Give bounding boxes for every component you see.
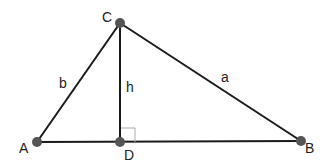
side-a-line (120, 23, 301, 141)
label-B: B (305, 140, 314, 156)
label-C: C (102, 9, 112, 25)
label-side-a: a (221, 69, 229, 85)
label-altitude-h: h (126, 79, 134, 95)
label-side-b: b (59, 75, 67, 91)
point-D (115, 137, 125, 147)
point-A (32, 137, 42, 147)
base-line (37, 141, 301, 142)
point-C (115, 18, 125, 28)
label-A: A (19, 140, 29, 156)
side-b-line (37, 23, 120, 142)
triangle-diagram: C A D B b h a (0, 0, 329, 167)
label-D: D (124, 147, 134, 163)
